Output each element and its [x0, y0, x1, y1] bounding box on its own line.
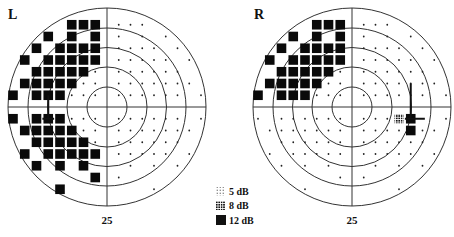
- normal-point: [433, 153, 435, 155]
- normal-point: [386, 83, 388, 85]
- defect-12db: [55, 126, 65, 136]
- normal-point: [177, 118, 179, 120]
- defect-12db: [312, 67, 322, 77]
- normal-point: [188, 59, 190, 61]
- normal-point: [141, 94, 143, 96]
- normal-point: [386, 24, 388, 26]
- normal-point: [130, 24, 132, 26]
- normal-point: [153, 118, 155, 120]
- normal-point: [83, 118, 85, 120]
- normal-point: [398, 83, 400, 85]
- normal-point: [130, 153, 132, 155]
- defect-12db: [32, 67, 42, 77]
- normal-point: [165, 94, 167, 96]
- defect-12db: [67, 20, 77, 30]
- normal-point: [316, 94, 318, 96]
- normal-point: [177, 141, 179, 143]
- normal-point: [153, 165, 155, 167]
- normal-point: [398, 188, 400, 190]
- normal-point: [363, 153, 365, 155]
- defect-12db: [79, 67, 89, 77]
- defect-12db: [32, 137, 42, 147]
- defect-12db: [90, 43, 100, 53]
- normal-point: [118, 118, 120, 120]
- defect-12db: [253, 90, 263, 100]
- normal-point: [339, 71, 341, 73]
- normal-point: [339, 94, 341, 96]
- defect-12db: [406, 126, 416, 136]
- defect-12db: [335, 43, 345, 53]
- normal-point: [433, 83, 435, 85]
- normal-point: [141, 141, 143, 143]
- normal-point: [118, 71, 120, 73]
- defect-12db: [90, 32, 100, 42]
- normal-point: [328, 94, 330, 96]
- normal-point: [339, 130, 341, 132]
- normal-point: [316, 130, 318, 132]
- normal-point: [410, 71, 412, 73]
- normal-point: [94, 130, 96, 132]
- normal-point: [153, 83, 155, 85]
- defect-12db: [55, 114, 65, 124]
- normal-point: [130, 165, 132, 167]
- normal-point: [281, 118, 283, 120]
- left-scale-label: 25: [102, 214, 114, 226]
- normal-point: [188, 130, 190, 132]
- normal-point: [422, 71, 424, 73]
- normal-point: [433, 130, 435, 132]
- legend-8db-label: 8 dB: [229, 200, 249, 211]
- defect-12db: [43, 126, 53, 136]
- normal-point: [386, 118, 388, 120]
- legend: 5 dB 8 dB 12 dB: [216, 186, 254, 226]
- normal-point: [375, 165, 377, 167]
- defect-12db: [288, 32, 298, 42]
- defect-12db: [335, 32, 345, 42]
- normal-point: [422, 47, 424, 49]
- normal-point: [118, 130, 120, 132]
- normal-point: [141, 36, 143, 38]
- defect-12db: [55, 55, 65, 65]
- normal-point: [177, 47, 179, 49]
- normal-point: [200, 94, 202, 96]
- normal-point: [363, 94, 365, 96]
- normal-point: [292, 118, 294, 120]
- defect-12db: [55, 161, 65, 171]
- legend-5db-swatch: [216, 187, 225, 196]
- normal-point: [363, 59, 365, 61]
- normal-point: [386, 153, 388, 155]
- normal-point: [398, 153, 400, 155]
- normal-point: [292, 153, 294, 155]
- right-scale-label: 25: [347, 214, 359, 226]
- normal-point: [165, 130, 167, 132]
- normal-point: [339, 83, 341, 85]
- normal-point: [363, 118, 365, 120]
- normal-point: [141, 118, 143, 120]
- normal-point: [153, 188, 155, 190]
- defect-12db: [43, 55, 53, 65]
- left-eye-label: L: [8, 7, 17, 22]
- defect-12db: [312, 79, 322, 89]
- normal-point: [304, 130, 306, 132]
- defect-12db: [312, 32, 322, 42]
- defect-12db: [55, 137, 65, 147]
- right-eye-label: R: [254, 7, 265, 22]
- left-eye-field: [8, 8, 206, 206]
- normal-point: [339, 153, 341, 155]
- normal-point: [153, 59, 155, 61]
- normal-point: [328, 165, 330, 167]
- defect-12db: [79, 149, 89, 159]
- defect-12db: [300, 90, 310, 100]
- normal-point: [328, 153, 330, 155]
- normal-point: [153, 130, 155, 132]
- normal-point: [165, 83, 167, 85]
- normal-point: [375, 59, 377, 61]
- defect-12db: [300, 79, 310, 89]
- normal-point: [118, 94, 120, 96]
- defect-12db: [277, 43, 287, 53]
- normal-point: [118, 59, 120, 61]
- normal-point: [375, 24, 377, 26]
- normal-point: [153, 94, 155, 96]
- normal-point: [71, 118, 73, 120]
- normal-point: [165, 153, 167, 155]
- normal-point: [292, 141, 294, 143]
